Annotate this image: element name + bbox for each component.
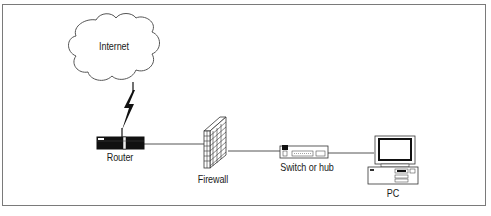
brick-wall-icon (204, 117, 226, 168)
internet-label: Internet (98, 40, 131, 52)
router-label: Router (104, 151, 137, 163)
pc-label: PC (382, 187, 403, 199)
network-diagram (0, 0, 491, 216)
router-icon (97, 137, 144, 149)
switch-icon (280, 145, 328, 158)
desktop-computer-icon (368, 136, 418, 184)
firewall-label: Firewall (194, 173, 232, 185)
switch-label: Switch or hub (278, 161, 335, 173)
lightning-bolt-icon (122, 82, 135, 138)
